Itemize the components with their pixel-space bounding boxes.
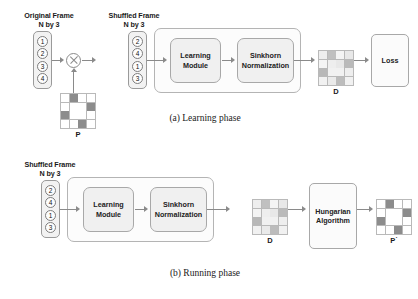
doubly-stochastic-matrix-d-b bbox=[252, 199, 288, 235]
matrix-cell bbox=[61, 111, 69, 119]
hungarian-line1: Hungarian bbox=[315, 207, 351, 217]
sinkhorn-line2: Normalization bbox=[242, 61, 290, 71]
frame-item: 1 bbox=[45, 210, 56, 221]
matrix-cell bbox=[78, 94, 86, 102]
sinkhorn-normalization-box-b: Sinkhorn Normalization bbox=[150, 187, 207, 232]
arrow-hungarian-to-pprime bbox=[357, 206, 376, 213]
learning-module-line1-b: Learning bbox=[93, 200, 123, 210]
matrix-cell bbox=[336, 68, 344, 76]
arrow-learning-to-sinkhorn-b bbox=[134, 206, 150, 213]
arrow-d-to-loss bbox=[354, 57, 372, 64]
arrow-operator-to-shuffled bbox=[82, 57, 98, 64]
matrix-cell bbox=[319, 77, 327, 85]
arrow-original-to-operator bbox=[52, 57, 65, 64]
frame-item: 4 bbox=[37, 73, 48, 84]
matrix-cell bbox=[377, 217, 385, 225]
frame-item: 3 bbox=[45, 222, 56, 233]
recovered-permutation-matrix-pprime bbox=[376, 199, 412, 235]
frame-item: 4 bbox=[132, 48, 143, 59]
matrix-cell bbox=[394, 209, 402, 217]
matrix-cell bbox=[270, 217, 278, 225]
matrix-cell bbox=[403, 217, 411, 225]
matrix-cell bbox=[70, 120, 78, 128]
matrix-cell bbox=[262, 200, 270, 208]
matrix-cell bbox=[328, 77, 336, 85]
matrix-cell bbox=[377, 209, 385, 217]
matrix-cell bbox=[345, 51, 353, 59]
original-frame-label-line2: N by 3 bbox=[13, 20, 85, 29]
matrix-cell bbox=[345, 77, 353, 85]
loss-box: Loss bbox=[371, 34, 409, 87]
matrix-cell bbox=[328, 68, 336, 76]
frame-item: 3 bbox=[37, 61, 48, 72]
matrix-cell bbox=[253, 217, 261, 225]
loss-label: Loss bbox=[382, 56, 399, 66]
permutation-matrix-p bbox=[60, 93, 96, 129]
matrix-cell bbox=[253, 226, 261, 234]
matrix-cell bbox=[377, 226, 385, 234]
caption-learning-phase: (a) Learning phase bbox=[129, 113, 281, 123]
frame-item: 2 bbox=[45, 185, 56, 196]
matrix-cell bbox=[403, 226, 411, 234]
matrix-cell bbox=[319, 51, 327, 59]
matrix-cell bbox=[394, 200, 402, 208]
shuffled-frame-label-line1: Shuffled Frame bbox=[96, 11, 172, 20]
matrix-cell bbox=[386, 226, 394, 234]
matrix-cell bbox=[78, 120, 86, 128]
original-frame-label-line1: Original Frame bbox=[13, 11, 85, 20]
learning-module-line1: Learning bbox=[180, 51, 210, 61]
matrix-cell bbox=[87, 94, 95, 102]
matrix-cell bbox=[279, 226, 287, 234]
matrix-cell bbox=[87, 120, 95, 128]
matrix-cell bbox=[403, 200, 411, 208]
matrix-cell bbox=[328, 60, 336, 68]
arrow-shuffled-to-learning-module bbox=[147, 57, 169, 64]
learning-module-box-b: Learning Module bbox=[83, 187, 134, 232]
matrix-cell bbox=[270, 209, 278, 217]
frame-item: 4 bbox=[45, 197, 56, 208]
arrow-permutation-to-operator bbox=[70, 68, 78, 93]
arrow-shuffled-to-learning-module-b bbox=[60, 206, 82, 213]
matrix-cell bbox=[377, 200, 385, 208]
doubly-stochastic-matrix-d-a bbox=[318, 50, 354, 86]
matrix-cell bbox=[270, 226, 278, 234]
matrix-cell bbox=[328, 51, 336, 59]
matrix-cell bbox=[61, 94, 69, 102]
matrix-cell bbox=[61, 103, 69, 111]
caption-running-phase: (b) Running phase bbox=[129, 268, 281, 278]
matrix-cell bbox=[70, 111, 78, 119]
frame-item: 3 bbox=[132, 73, 143, 84]
learning-module-line2-b: Module bbox=[93, 210, 123, 220]
running-shuffled-frame-label-line1: Shuffled Frame bbox=[12, 160, 88, 169]
arrow-sinkhorn-to-d-a bbox=[294, 57, 318, 64]
figure-canvas: Original Frame N by 3 Shuffled Frame N b… bbox=[0, 0, 418, 299]
matrix-cell bbox=[78, 111, 86, 119]
matrix-cell bbox=[262, 209, 270, 217]
matrix-cell bbox=[70, 94, 78, 102]
matrix-cell bbox=[336, 60, 344, 68]
d-matrix-label-a: D bbox=[318, 87, 354, 96]
matrix-cell bbox=[403, 209, 411, 217]
matrix-cell bbox=[319, 68, 327, 76]
frame-item: 2 bbox=[37, 48, 48, 59]
matrix-cell bbox=[279, 200, 287, 208]
matrix-cell bbox=[262, 217, 270, 225]
matrix-cell bbox=[336, 51, 344, 59]
matrix-cell bbox=[87, 111, 95, 119]
pprime-matrix-label: P˙ bbox=[376, 236, 412, 245]
matrix-cell bbox=[394, 226, 402, 234]
matrix-cell bbox=[87, 103, 95, 111]
arrow-d-to-hungarian bbox=[288, 206, 309, 213]
arrow-learning-to-sinkhorn-a bbox=[221, 57, 237, 64]
matrix-cell bbox=[70, 103, 78, 111]
learning-module-line2: Module bbox=[180, 61, 210, 71]
permutation-matrix-label: P bbox=[60, 130, 96, 139]
matrix-cell bbox=[345, 68, 353, 76]
matrix-cell bbox=[386, 217, 394, 225]
arrow-sinkhorn-to-d-b bbox=[207, 206, 233, 213]
learning-module-box-a: Learning Module bbox=[170, 38, 221, 83]
sinkhorn-line1: Sinkhorn bbox=[242, 51, 290, 61]
matrix-cell bbox=[279, 217, 287, 225]
sinkhorn-line1-b: Sinkhorn bbox=[155, 200, 203, 210]
frame-item: 1 bbox=[37, 36, 48, 47]
